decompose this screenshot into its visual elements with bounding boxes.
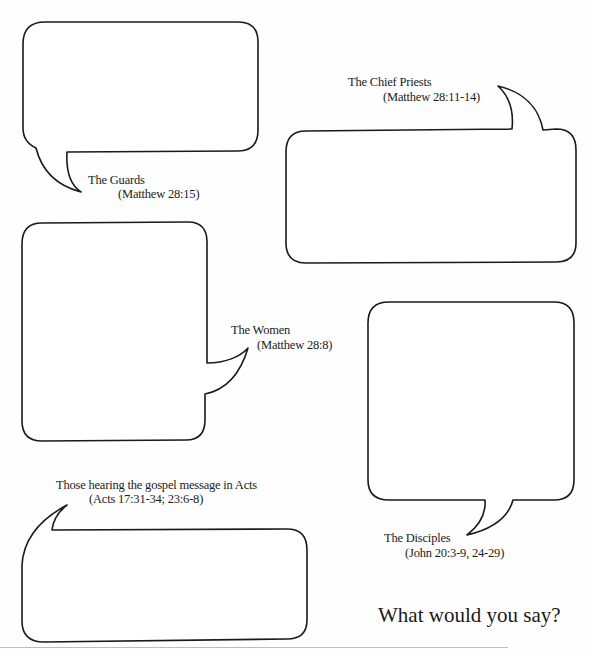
response-input-disciples[interactable] (378, 312, 568, 494)
bubble-label-guards: The Guards (88, 173, 145, 187)
bubble-label-chief-priests: The Chief Priests (348, 75, 431, 89)
response-input-guards[interactable] (32, 30, 252, 146)
response-input-women[interactable] (31, 232, 201, 434)
bubble-label-acts-hearers: Those hearing the gospel message in Acts (56, 478, 257, 492)
bubble-reference-acts-hearers: (Acts 17:31-34; 23:6-8) (89, 492, 203, 506)
bubble-reference-chief-priests: (Matthew 28:11-14) (383, 90, 480, 104)
bottom-divider (0, 647, 508, 648)
bubble-reference-women: (Matthew 28:8) (257, 338, 332, 352)
prompt-heading: What would you say? (378, 603, 561, 628)
bubble-reference-disciples: (John 20:3-9, 24-29) (405, 546, 504, 560)
bubble-reference-guards: (Matthew 28:15) (118, 187, 199, 201)
response-input-chief-priests[interactable] (296, 140, 570, 258)
bubble-label-disciples: The Disciples (384, 531, 450, 545)
bubble-label-women: The Women (231, 323, 290, 337)
response-input-acts-hearers[interactable] (32, 538, 301, 636)
worksheet-page: The Guards (Matthew 28:15) The Chief Pri… (0, 0, 594, 657)
